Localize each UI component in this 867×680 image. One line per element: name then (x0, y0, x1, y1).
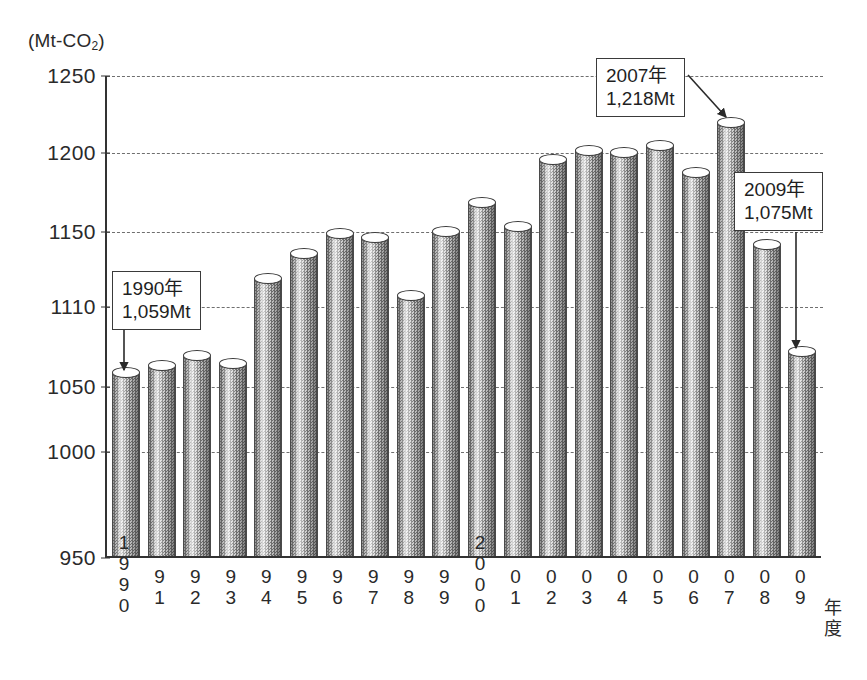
bar-cap-2008 (753, 239, 781, 250)
x-axis-label-digit: 7 (359, 587, 387, 608)
bar-2009 (788, 352, 816, 556)
x-axis-label-digit: 9 (252, 566, 280, 587)
x-axis-label-2004: 04 (608, 566, 636, 608)
x-axis-label-digit: 5 (288, 587, 316, 608)
bar-2003 (575, 151, 603, 556)
x-axis-label-digit: 9 (786, 587, 814, 608)
bar-2001 (504, 227, 532, 556)
x-axis-label-1990: 1990 (110, 532, 138, 616)
y-axis-tickmark-1000 (101, 452, 110, 453)
y-axis-tickmark-1050 (101, 387, 110, 388)
x-axis-label-digit: 0 (715, 566, 743, 587)
x-axis-label-digit: 2 (466, 532, 494, 553)
bar-cap-1997 (361, 232, 389, 243)
x-axis-label-digit: 0 (680, 566, 708, 587)
annotation-2007: 2007年 1,218Mt (596, 58, 685, 117)
bar-cap-1990 (112, 367, 140, 378)
bar-cap-2002 (539, 154, 567, 165)
bar-cap-1999 (432, 226, 460, 237)
annotation-2009: 2009年 1,075Mt (734, 172, 823, 231)
bar-1993 (219, 364, 247, 556)
x-axis-label-digit: 9 (430, 566, 458, 587)
x-axis-label-digit: 0 (537, 566, 565, 587)
y-axis-tick-1250: 1250 (47, 64, 96, 88)
x-axis-label-digit: 9 (324, 566, 352, 587)
x-axis-label-digit: 8 (395, 587, 423, 608)
bar-cap-1996 (326, 228, 354, 239)
annotation-2009-year: 2009年 (744, 179, 805, 200)
bar-1991 (148, 366, 176, 556)
x-axis-label-digit: 9 (217, 566, 245, 587)
x-axis-label-digit: 7 (715, 587, 743, 608)
x-axis-label-1991: 91 (146, 566, 174, 608)
x-axis-label-digit: 1 (110, 532, 138, 553)
y-axis-tick-950: 950 (59, 546, 96, 570)
x-axis-label-digit: 6 (680, 587, 708, 608)
x-axis-label-2005: 05 (644, 566, 672, 608)
x-axis-label-digit: 0 (466, 553, 494, 574)
bar-2005 (646, 146, 674, 556)
bar-2008 (753, 245, 781, 556)
x-axis-label-digit: 0 (573, 566, 601, 587)
y-axis-tickmark-1110 (101, 307, 110, 308)
x-axis-label-1998: 98 (395, 566, 423, 608)
x-axis-label-digit: 2 (537, 587, 565, 608)
x-axis-label-digit: 4 (252, 587, 280, 608)
x-axis-label-digit: 6 (324, 587, 352, 608)
x-axis-label-1999: 99 (430, 566, 458, 608)
bar-2004 (610, 153, 638, 556)
annotation-1990: 1990年 1,059Mt (112, 271, 201, 330)
x-axis-unit-suffix: 年度 (822, 598, 844, 640)
bar-2002 (539, 160, 567, 556)
y-axis-tick-1110: 1110 (50, 295, 96, 319)
annotation-1990-value: 1,059Mt (122, 300, 191, 323)
bar-1996 (326, 234, 354, 556)
x-axis-label-digit: 0 (751, 566, 779, 587)
y-axis-tick-1200: 1200 (47, 141, 96, 165)
x-axis-label-digit: 9 (430, 587, 458, 608)
x-axis-label-1993: 93 (217, 566, 245, 608)
plot-area (105, 76, 821, 558)
bar-cap-1994 (254, 273, 282, 284)
bar-1990 (112, 373, 140, 556)
x-axis-label-digit: 9 (395, 566, 423, 587)
bar-1992 (183, 356, 211, 556)
y-axis-tick-labels: 950100010501110115012001250 (0, 0, 96, 680)
y-axis-tickmark-1150 (101, 232, 110, 233)
y-axis-tick-1150: 1150 (49, 220, 96, 244)
x-axis-label-2007: 07 (715, 566, 743, 608)
x-axis-label-1994: 94 (252, 566, 280, 608)
x-axis-label-digit: 0 (644, 566, 672, 587)
x-axis-label-digit: 9 (110, 553, 138, 574)
x-axis-label-1996: 96 (324, 566, 352, 608)
bar-1995 (290, 254, 318, 556)
x-axis-label-1992: 92 (181, 566, 209, 608)
x-axis-label-digit: 9 (146, 566, 174, 587)
bar-cap-2006 (682, 167, 710, 178)
bar-1997 (361, 238, 389, 557)
bar-cap-1998 (397, 290, 425, 301)
x-axis-label-1997: 97 (359, 566, 387, 608)
bar-1998 (397, 296, 425, 556)
y-axis-tick-1050: 1050 (47, 375, 96, 399)
bar-cap-1992 (183, 350, 211, 361)
x-axis-label-digit: 5 (644, 587, 672, 608)
bar-cap-1995 (290, 248, 318, 259)
bar-cap-2000 (468, 197, 496, 208)
x-axis-label-digit: 1 (146, 587, 174, 608)
x-axis-label-digit: 0 (110, 595, 138, 616)
x-axis-unit-char: 度 (822, 619, 844, 640)
y-axis-tickmark-1200 (101, 153, 110, 154)
bar-cap-2005 (646, 140, 674, 151)
x-axis-label-2003: 03 (573, 566, 601, 608)
x-axis-label-digit: 0 (608, 566, 636, 587)
bar-cap-1993 (219, 358, 247, 369)
x-axis-label-digit: 8 (751, 587, 779, 608)
x-axis-label-2002: 02 (537, 566, 565, 608)
annotation-2009-value: 1,075Mt (744, 201, 813, 224)
x-axis-label-2000: 2000 (466, 532, 494, 616)
x-axis-tick-labels: 1990919293949596979899200001020304050607… (105, 566, 821, 678)
x-axis-label-digit: 9 (359, 566, 387, 587)
x-axis-label-digit: 0 (466, 595, 494, 616)
bar-1994 (254, 279, 282, 556)
